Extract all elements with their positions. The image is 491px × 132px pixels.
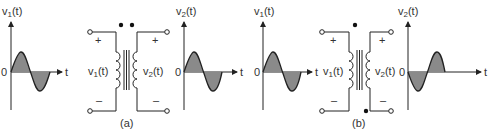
primary-plus: + [95,34,101,46]
secondary-plus: + [379,34,385,46]
transformer-a-labels: + – + – v1(t) v2(t) (a) [88,34,163,129]
terminal-secondary-bottom [389,109,394,114]
terminal-primary-bottom [320,109,325,114]
plot-a-input: v1(t) 0 t [1,5,68,110]
plot-b-input: v1(t) 0 t [254,5,318,110]
polarity-dot-primary [119,23,123,27]
caption-a: (a) [120,117,133,129]
secondary-minus: – [380,94,387,106]
primary-coil [349,52,353,88]
plot-a-output: v2(t) 0 t [175,5,243,110]
terminal-secondary-bottom [165,109,170,114]
origin-label: 0 [175,66,181,78]
plot-b-output: v2(t) 0 t [398,5,487,110]
x-axis-label: t [240,66,243,78]
y-axis-label: v2(t) [398,5,418,19]
y-axis-label: v2(t) [176,5,196,19]
caption-b: (b) [352,117,365,129]
x-axis-label: t [484,66,487,78]
terminal-secondary-top [165,30,170,35]
y-axis-label: v1(t) [254,5,274,19]
primary-minus: – [331,94,338,106]
secondary-coil [366,52,370,88]
primary-minus: – [96,94,103,106]
primary-coil [116,52,120,88]
wire [137,88,165,111]
primary-voltage-label: v1(t) [323,65,343,79]
x-axis-label: t [315,66,318,78]
x-axis-label: t [65,66,68,78]
polarity-dot-secondary [364,109,368,113]
terminal-primary-top [320,30,325,35]
primary-voltage-label: v1(t) [88,65,108,79]
polarity-dot-primary [353,23,357,27]
secondary-voltage-label: v2(t) [143,65,163,79]
origin-label: 0 [1,66,7,78]
terminal-primary-bottom [88,109,93,114]
secondary-minus: – [153,94,160,106]
secondary-coil [133,52,137,88]
terminal-secondary-top [389,30,394,35]
y-axis-label: v1(t) [2,5,22,19]
transformer-dot-convention-diagram: v1(t) 0 t + – + – v1(t) v2(t) (a) [0,0,491,132]
terminal-primary-top [88,30,93,35]
wire [137,32,165,52]
primary-plus: + [330,34,336,46]
secondary-voltage-label: v2(t) [375,65,395,79]
wire [324,32,349,52]
secondary-plus: + [152,34,158,46]
origin-label: 0 [254,66,260,78]
polarity-dot-secondary [130,23,134,27]
origin-label: 0 [399,66,405,78]
